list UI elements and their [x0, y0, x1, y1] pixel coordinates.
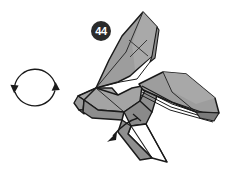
step-number-label: 44	[95, 25, 108, 37]
origami-step-diagram: 44	[0, 0, 227, 171]
fold-arrow-head-icon	[107, 132, 117, 142]
right-arrowhead-up-icon	[52, 82, 60, 91]
rotate-circle-arc-lower	[15, 91, 55, 106]
left-arrowhead-down-icon	[10, 85, 18, 94]
right-wing-tip-dark	[196, 112, 219, 121]
rotate-180-symbol	[10, 69, 59, 106]
rotate-circle-arc	[15, 69, 56, 86]
diagram-canvas: 44	[0, 0, 227, 171]
step-number-badge: 44	[91, 21, 111, 41]
